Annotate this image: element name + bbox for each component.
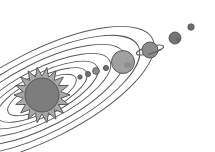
planet-3 — [93, 68, 100, 75]
planet-5-body — [112, 51, 135, 74]
planet-1 — [78, 75, 82, 79]
planet-2 — [85, 71, 90, 76]
planet-4 — [103, 65, 108, 70]
planet-7-body — [169, 32, 181, 44]
planet-7 — [169, 32, 181, 44]
planet-5-surface-spot — [124, 62, 132, 68]
sun-core — [25, 78, 59, 112]
planet-6-body — [142, 42, 158, 58]
planet-7-surface-spot — [176, 38, 180, 42]
solar-system-diagram: Solar System Diagram Line drawing of the… — [0, 0, 215, 152]
planet-8 — [188, 24, 194, 30]
planet-5 — [112, 51, 135, 74]
